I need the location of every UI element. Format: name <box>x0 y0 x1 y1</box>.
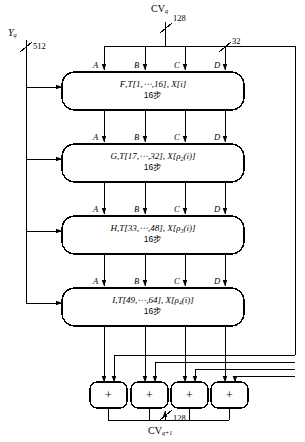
slash-cv-128 <box>160 23 172 33</box>
port-label-b-2: B <box>134 133 139 142</box>
port-label-b-3: B <box>134 205 139 214</box>
adder-c-symbol: + <box>171 389 208 401</box>
port-label-c-4: C <box>174 277 180 286</box>
compression-function-diagram <box>0 0 305 442</box>
port-label-c-3: C <box>174 205 180 214</box>
port-label-a-2: A <box>93 133 98 142</box>
cv-output-label: CVq+1 <box>148 426 172 437</box>
output-bitwidth: 128 <box>173 414 186 423</box>
round-block-i-text: I,T[49,⋯,64], X[ρ₄(i)] 16步 <box>62 295 244 316</box>
cv-input-label: CVq <box>151 4 168 15</box>
cv-input-bitwidth: 128 <box>173 14 186 23</box>
adder-a-symbol: + <box>90 389 127 401</box>
round-block-g-text: G,T[17,⋯,32], X[ρ₂(i)] 16步 <box>62 151 244 172</box>
branch-bitwidth-label: 32 <box>232 37 241 46</box>
port-label-a-3: A <box>93 205 98 214</box>
round-block-h-text: H,T[33,⋯,48], X[ρ₃(i)] 16步 <box>62 223 244 244</box>
port-label-b-4: B <box>134 277 139 286</box>
port-label-c-1: C <box>174 61 180 70</box>
port-label-a-1: A <box>93 61 98 70</box>
adder-d-symbol: + <box>211 389 248 401</box>
port-label-d-3: D <box>214 205 220 214</box>
slash-out-128 <box>160 410 172 420</box>
y-input-label: Yq <box>8 28 17 39</box>
port-label-d-1: D <box>214 61 220 70</box>
adder-b-symbol: + <box>131 389 168 401</box>
round-block-f-text: F,T[1,⋯,16], X[i] 16步 <box>62 79 244 100</box>
fb-to-adder-d <box>235 376 295 382</box>
port-label-a-4: A <box>93 277 98 286</box>
y-input-bitwidth: 512 <box>33 42 46 51</box>
port-label-b-1: B <box>134 61 139 70</box>
port-label-c-2: C <box>174 133 180 142</box>
port-label-d-4: D <box>214 277 220 286</box>
port-label-d-2: D <box>214 133 220 142</box>
